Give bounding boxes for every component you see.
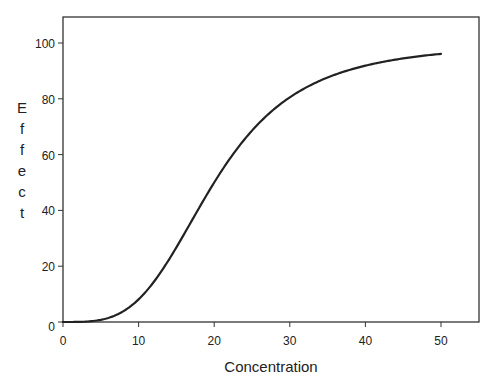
y-axis-title-letter: c (18, 183, 26, 200)
y-axis-title-letter: e (18, 162, 26, 179)
y-tick-label: 0 (48, 320, 55, 334)
y-axis-title-letter: E (17, 99, 27, 116)
x-tick-label: 10 (132, 334, 146, 348)
plot-frame (63, 17, 479, 322)
y-axis-title-letter: f (20, 141, 25, 158)
x-tick-label: 0 (60, 334, 67, 348)
x-axis-title: Concentration (224, 358, 317, 375)
x-tick-label: 30 (283, 334, 297, 348)
y-tick-label: 60 (42, 149, 56, 163)
y-tick-label: 20 (42, 260, 56, 274)
y-tick-label: 40 (42, 204, 56, 218)
x-tick-label: 20 (208, 334, 222, 348)
y-axis-title-letter: f (20, 120, 25, 137)
y-tick-label: 100 (35, 37, 55, 51)
effect-concentration-chart: 01020304050 020406080100 Concentration E… (0, 0, 501, 391)
y-tick-label: 80 (42, 93, 56, 107)
x-tick-label: 50 (434, 334, 448, 348)
y-axis-title: Effect (17, 99, 27, 221)
y-axis-ticks: 020406080100 (35, 37, 63, 334)
y-axis-title-letter: t (20, 204, 25, 221)
x-axis-ticks: 01020304050 (60, 322, 448, 348)
x-tick-label: 40 (359, 334, 373, 348)
